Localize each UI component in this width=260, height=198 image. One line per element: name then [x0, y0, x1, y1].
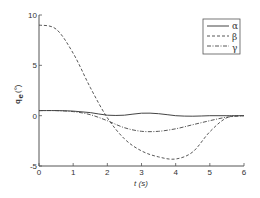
y-tick-label: 5 [33, 61, 38, 70]
x-tick-label: 6 [242, 168, 247, 177]
legend: α β γ [203, 19, 240, 54]
y-tick-label: 0 [33, 112, 38, 121]
x-tick-label: 1 [71, 168, 76, 177]
x-tick-label: 5 [208, 168, 213, 177]
x-tick-label: 4 [173, 168, 178, 177]
x-tick-label: 0 [37, 168, 42, 177]
legend-beta-label: β [232, 32, 237, 42]
y-axis-label-sub: e [16, 94, 25, 99]
series-gamma-line [39, 111, 244, 132]
x-tick-label: 3 [139, 168, 144, 177]
legend-alpha-label: α [232, 21, 238, 31]
y-tick-label: -5 [30, 162, 38, 171]
y-ticks: -50510 [28, 11, 42, 171]
x-tick-label: 2 [105, 168, 110, 177]
y-axis-label-main: q [13, 99, 22, 104]
y-axis-label-unit: (°) [13, 84, 22, 93]
series-alpha-line [39, 111, 244, 117]
x-ticks: 0123456 [37, 163, 247, 177]
line-chart: 0123456 -50510 t (s) q e (°) α β γ [0, 0, 260, 198]
x-axis-label: t (s) [134, 179, 148, 188]
legend-gamma-label: γ [232, 43, 237, 53]
y-axis-label: q e (°) [13, 84, 25, 104]
y-tick-label: 10 [28, 11, 37, 20]
